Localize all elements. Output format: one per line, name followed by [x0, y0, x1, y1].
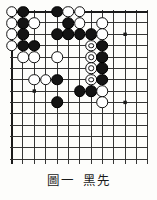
- white-stone: [17, 51, 29, 63]
- black-stone: [51, 6, 63, 18]
- black-stone: [17, 6, 29, 18]
- black-stone: [17, 29, 29, 41]
- black-stone: [74, 29, 86, 41]
- white-stone: [6, 29, 18, 41]
- black-stone: [85, 85, 97, 97]
- black-stone: [97, 40, 109, 52]
- white-stone: [29, 17, 41, 29]
- black-stone: [51, 97, 63, 109]
- black-stone: [17, 17, 29, 29]
- white-stone: [6, 40, 18, 52]
- white-stone: [6, 17, 18, 29]
- white-stone: [97, 85, 109, 97]
- figure-container: 圖一黑先: [0, 0, 157, 200]
- stone-circle-marker: [88, 43, 93, 48]
- black-stone: [29, 40, 41, 52]
- star-point: [123, 101, 126, 104]
- white-stone-marked: [85, 63, 97, 75]
- white-stone-marked: [85, 51, 97, 63]
- black-stone: [17, 40, 29, 52]
- white-stone: [74, 6, 86, 18]
- black-stone: [97, 63, 109, 75]
- white-stone: [29, 51, 41, 63]
- caption-label: 圖一: [47, 173, 74, 188]
- white-stone: [97, 97, 109, 109]
- caption-text: 黑先: [83, 173, 110, 188]
- white-stone: [51, 51, 63, 63]
- white-stone: [40, 74, 52, 86]
- white-stone: [29, 74, 41, 86]
- white-stone-marked: [85, 74, 97, 86]
- figure-caption: 圖一黑先: [0, 170, 157, 189]
- stone-circle-marker: [88, 77, 93, 82]
- black-stone: [74, 85, 86, 97]
- white-stone: [97, 29, 109, 41]
- black-stone: [51, 74, 63, 86]
- black-stone: [85, 29, 97, 41]
- white-stone: [63, 6, 75, 18]
- black-stone: [63, 29, 75, 41]
- white-stone-marked: [85, 40, 97, 52]
- black-stone: [51, 29, 63, 41]
- star-point: [123, 33, 126, 36]
- white-stone: [97, 17, 109, 29]
- black-stone: [63, 17, 75, 29]
- star-point: [33, 89, 36, 92]
- go-board: [9, 9, 148, 164]
- white-stone: [74, 17, 86, 29]
- white-stone: [6, 6, 18, 18]
- black-stone: [97, 51, 109, 63]
- black-stone: [97, 74, 109, 86]
- stone-circle-marker: [88, 54, 93, 59]
- stone-circle-marker: [88, 66, 93, 71]
